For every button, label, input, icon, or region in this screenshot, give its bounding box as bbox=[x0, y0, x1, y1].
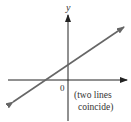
origin-label: 0 bbox=[60, 83, 65, 93]
y-axis-label: y bbox=[65, 2, 71, 13]
annotation-line-2: coincide) bbox=[78, 102, 113, 113]
annotation-line-1: (two lines bbox=[74, 90, 112, 101]
graph: y 0 (two lines coincide) bbox=[0, 0, 131, 122]
